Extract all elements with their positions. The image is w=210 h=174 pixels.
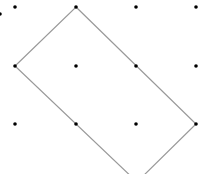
grid-dots <box>0 5 198 126</box>
grid-dot <box>194 64 198 68</box>
grid-dot <box>74 5 78 9</box>
grid-dot <box>74 122 78 126</box>
grid-dot <box>194 122 198 126</box>
grid-dot <box>13 122 17 126</box>
dot-grid-diagram <box>0 0 210 174</box>
grid-dot <box>13 64 17 68</box>
grid-dot <box>13 5 17 9</box>
grid-dot <box>194 5 198 9</box>
rectangle-shape <box>15 7 196 174</box>
grid-dot <box>134 64 138 68</box>
grid-dot <box>74 64 78 68</box>
grid-dot <box>0 12 2 16</box>
grid-dot <box>134 5 138 9</box>
grid-dot <box>134 122 138 126</box>
